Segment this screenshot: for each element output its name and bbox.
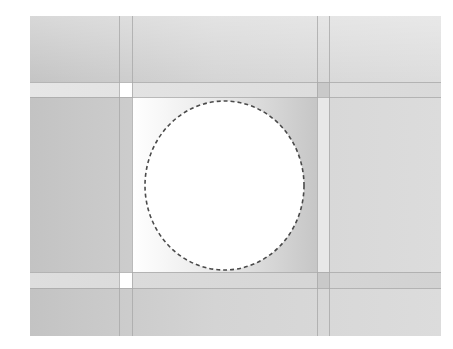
top-band [30,82,441,97]
canvas-top-glow [30,16,441,86]
corner-cell [317,82,329,97]
corner-cell [119,82,132,97]
side-strip [317,97,329,272]
circle-fill [145,101,304,270]
canvas-artwork[interactable] [0,0,453,349]
bottom-band [30,272,441,288]
editor-canvas-stage [0,0,453,349]
corner-cell [119,272,132,288]
corner-cell [317,272,329,288]
